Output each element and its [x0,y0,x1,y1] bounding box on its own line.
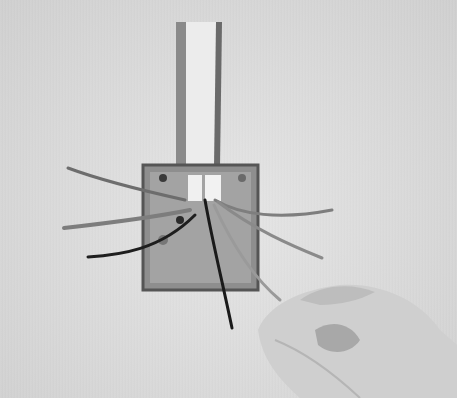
photo-scene [0,0,457,398]
scene-illustration [0,0,457,398]
metal-back-box [143,165,258,290]
hand [258,285,457,398]
conduit-chase [176,22,222,167]
